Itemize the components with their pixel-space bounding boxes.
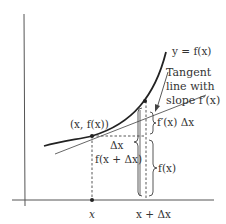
tick-label-x-plus-dx: x + Δx — [136, 208, 171, 220]
fprime-dx-label: f′(x) Δx — [157, 116, 194, 128]
tick-label-x: x — [89, 208, 95, 220]
point-x-fx — [90, 134, 94, 138]
tangent-label-line2: line with — [166, 80, 215, 93]
curve-label: y = f(x) — [171, 45, 211, 57]
tangent-label-line3: slope f′(x) — [166, 94, 220, 107]
curve-f — [44, 52, 166, 146]
point-x-plus-dx-on-curve — [143, 99, 147, 103]
brace-f-x — [149, 140, 157, 196]
tangent-label-line1: Tangent — [166, 66, 212, 79]
tangent-line-diagram: y = f(x) Tangent line with slope f′(x) (… — [0, 0, 226, 224]
f-x-plus-dx-label: f(x + Δx) — [95, 153, 142, 165]
y-axis — [24, 14, 25, 206]
brace-f-x-plus-dx — [134, 108, 142, 196]
tangent-arrow-head — [155, 104, 160, 112]
point-label: (x, f(x)) — [70, 118, 109, 130]
f-x-label: f(x) — [158, 162, 176, 174]
tick-point-x — [90, 198, 94, 202]
delta-x-label: Δx — [110, 139, 124, 151]
